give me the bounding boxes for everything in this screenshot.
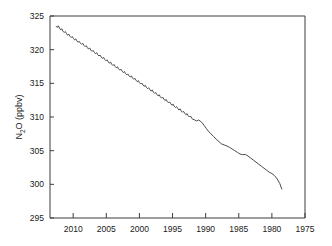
x-tick-label: 2005 <box>97 224 116 234</box>
plot-frame <box>50 16 305 218</box>
y-axis-title-post: O (ppbv) <box>14 94 24 129</box>
x-tick-label: 1975 <box>296 224 315 234</box>
x-tick-label: 1990 <box>196 224 215 234</box>
y-tick-label: 325 <box>30 11 44 21</box>
x-tick-label: 1980 <box>262 224 281 234</box>
y-tick-label: 305 <box>30 146 44 156</box>
x-tick-label: 1985 <box>229 224 248 234</box>
y-tick-label: 320 <box>30 45 44 55</box>
y-tick-label: 315 <box>30 78 44 88</box>
y-tick-label: 295 <box>30 213 44 223</box>
x-axis: 20102005200019951990198519801975 <box>64 213 315 234</box>
y-axis-title: N2O (ppbv) <box>14 94 26 139</box>
n2o-line-chart: 295300305310315320325 201020052000199519… <box>0 0 332 246</box>
data-series-group <box>56 26 282 189</box>
x-tick-label: 1995 <box>163 224 182 234</box>
x-tick-label: 2010 <box>64 224 83 234</box>
y-axis-title-text: N2O (ppbv) <box>14 94 26 139</box>
y-tick-label: 310 <box>30 112 44 122</box>
y-tick-label: 300 <box>30 179 44 189</box>
series-line-n2o <box>56 26 282 189</box>
x-tick-label: 2000 <box>130 224 149 234</box>
chart-figure: 295300305310315320325 201020052000199519… <box>0 0 332 246</box>
